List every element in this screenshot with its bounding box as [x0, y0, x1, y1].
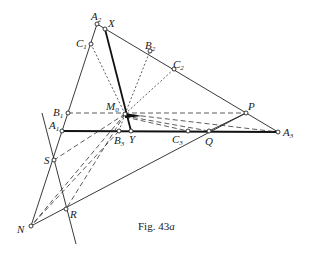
geometry-diagram: A2 X C1 B2 C2 B1 M0 P A1 B3 Y C3 Q A3 S … — [0, 0, 312, 254]
dotted-m0-b2 — [125, 51, 150, 114]
dashed-m0-q — [125, 116, 209, 131]
point-r — [64, 207, 68, 211]
point-b1 — [66, 111, 70, 115]
label-b2: B2 — [145, 39, 156, 53]
label-a3: A3 — [282, 126, 294, 140]
point-a1 — [60, 129, 64, 133]
point-b3 — [117, 129, 121, 133]
label-c3: C3 — [172, 133, 183, 147]
label-p: P — [247, 100, 255, 112]
point-m0 — [123, 112, 127, 116]
dotted-m0-c2 — [125, 69, 174, 114]
label-m0: M0 — [105, 100, 119, 114]
point-q — [207, 129, 211, 133]
figure-43a: A2 X C1 B2 C2 B1 M0 P A1 B3 Y C3 Q A3 S … — [0, 0, 312, 254]
label-s: S — [44, 154, 50, 166]
dashed-m0-a3 — [125, 114, 278, 132]
label-c2: C2 — [173, 58, 184, 72]
label-q: Q — [205, 135, 213, 147]
point-a3 — [276, 130, 280, 134]
label-x: X — [107, 17, 116, 29]
label-r: R — [69, 208, 77, 220]
label-n: N — [16, 223, 25, 235]
point-s — [52, 158, 56, 162]
label-y: Y — [129, 133, 137, 145]
label-b3: B3 — [114, 134, 125, 148]
side-a1-a3 — [62, 131, 278, 132]
label-a2: A2 — [90, 10, 102, 24]
line-p-q — [209, 113, 246, 131]
point-x — [103, 27, 107, 31]
point-c1 — [89, 42, 93, 46]
figure-caption: Fig. 43a — [138, 220, 175, 232]
dashed-m0-c3 — [125, 117, 188, 131]
dashed-m0-r — [66, 114, 125, 209]
label-b1: B1 — [53, 106, 63, 120]
label-a1: A1 — [48, 119, 59, 133]
point-n — [29, 224, 33, 228]
point-c3 — [186, 129, 190, 133]
side-a2-n — [31, 24, 97, 226]
label-c1: C1 — [76, 37, 87, 51]
